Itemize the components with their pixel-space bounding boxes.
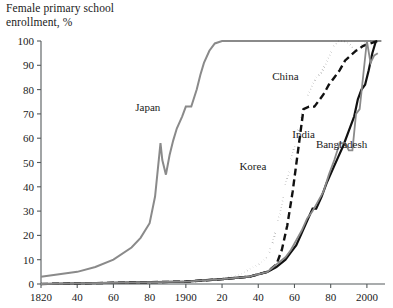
series-line-bangladesh [41, 41, 378, 284]
x-tick-label: 60 [108, 291, 120, 303]
y-tick-label: 50 [23, 157, 35, 169]
series-lines [41, 41, 381, 284]
y-tick-label: 100 [18, 35, 35, 47]
series-line-japan [41, 41, 381, 277]
x-tick-label: 40 [253, 291, 265, 303]
series-line-china [41, 41, 378, 284]
series-line-india [41, 41, 376, 284]
series-label-india: India [292, 128, 315, 140]
chart-plot-area: 0102030405060708090100 18204060801900204… [0, 0, 393, 308]
series-label-japan: Japan [135, 101, 161, 113]
series-label-korea: Korea [239, 160, 266, 172]
y-tick-label: 30 [23, 205, 35, 217]
x-axis: 18204060801900204060802000 [30, 284, 385, 303]
series-label-bangladesh: Bangladesh [316, 138, 368, 150]
y-tick-label: 20 [23, 229, 35, 241]
y-tick-label: 40 [23, 181, 35, 193]
x-tick-label: 20 [217, 291, 229, 303]
x-tick-label: 80 [325, 291, 337, 303]
y-tick-label: 80 [23, 84, 35, 96]
y-tick-label: 70 [23, 108, 35, 120]
x-tick-label: 1820 [30, 291, 53, 303]
y-axis: 0102030405060708090100 [18, 35, 42, 290]
y-tick-label: 0 [29, 278, 35, 290]
x-tick-label: 60 [289, 291, 301, 303]
x-tick-label: 2000 [356, 291, 379, 303]
y-tick-label: 90 [23, 59, 35, 71]
x-tick-label: 80 [144, 291, 156, 303]
series-line-korea [41, 41, 378, 284]
x-tick-label: 40 [72, 291, 84, 303]
x-tick-label: 1900 [175, 291, 198, 303]
series-label-china: China [272, 70, 298, 82]
y-tick-label: 60 [23, 132, 35, 144]
y-tick-label: 10 [23, 254, 35, 266]
chart-container: Female primary school enrollment, % 0102… [0, 0, 393, 308]
